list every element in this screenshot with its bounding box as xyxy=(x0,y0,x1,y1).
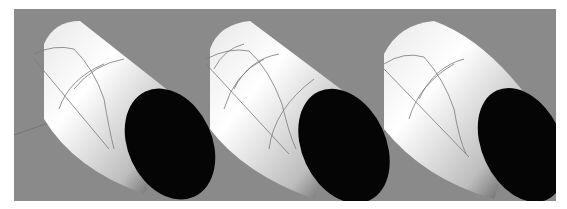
cylinder-2 xyxy=(206,21,407,201)
cylinder-3 xyxy=(384,21,556,201)
cylinders-render xyxy=(14,9,556,201)
cylinder-1 xyxy=(34,21,233,201)
render-viewport xyxy=(14,9,556,201)
